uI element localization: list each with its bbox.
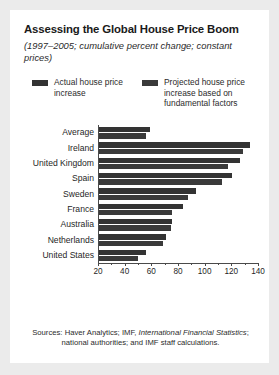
x-axis-tick-label: 80 [173, 267, 182, 276]
x-axis-tick-label: 40 [120, 267, 129, 276]
category-label: France [67, 204, 94, 214]
category-label: United Kingdom [33, 158, 94, 168]
bar-actual [99, 142, 250, 147]
bar-projected [99, 179, 222, 184]
category-label: Ireland [68, 143, 94, 153]
category-label: Netherlands [48, 235, 94, 245]
x-axis-tick-label: 60 [147, 267, 156, 276]
bar-actual [99, 204, 183, 209]
bar-projected [99, 149, 243, 154]
category-label: Australia [61, 219, 94, 229]
source-note: Sources: Haver Analytics; IMF, Internati… [28, 328, 253, 348]
bar-actual [99, 234, 166, 239]
bar-actual [99, 219, 172, 224]
x-axis-tick [231, 263, 232, 266]
plot-area: AverageIrelandUnited KingdomSpainSwedenF… [10, 125, 269, 277]
bar-projected [99, 210, 172, 215]
x-axis-tick [125, 263, 126, 266]
x-axis-tick-label: 20 [93, 267, 102, 276]
y-axis-category-labels: AverageIrelandUnited KingdomSpainSwedenF… [10, 125, 98, 263]
bar-projected [99, 133, 146, 138]
category-label: Sweden [63, 189, 94, 199]
page-title: Assessing the Global House Price Boom [24, 23, 255, 36]
x-axis-tick [205, 263, 206, 266]
x-axis-tick [151, 263, 152, 266]
legend-label-projected: Projected house price increase based on … [164, 77, 260, 109]
x-axis-tick-label: 120 [224, 267, 238, 276]
chart-subtitle: (1997–2005; cumulative percent change; c… [24, 40, 252, 63]
x-axis-minor-tick [191, 263, 192, 265]
bar-actual [99, 127, 150, 132]
bar-projected [99, 225, 171, 230]
bar-actual [99, 158, 240, 163]
bar-projected [99, 164, 228, 169]
category-label: Spain [72, 173, 94, 183]
x-axis-minor-tick [111, 263, 112, 265]
x-axis-minor-tick [138, 263, 139, 265]
source-italic-title: International Financial Statistics [139, 328, 247, 337]
x-axis-minor-tick [165, 263, 166, 265]
category-label: United States [42, 250, 94, 260]
x-axis-tick-label: 140 [251, 267, 265, 276]
bar-projected [99, 195, 188, 200]
bar-projected [99, 256, 138, 261]
x-axis-minor-tick [245, 263, 246, 265]
legend-label-actual: Actual house price increase [54, 77, 142, 98]
x-axis-tick [98, 263, 99, 266]
legend-entry-actual: Actual house price increase [32, 77, 142, 109]
bar-projected [99, 241, 163, 246]
x-axis-tick-label: 100 [198, 267, 212, 276]
category-label: Average [62, 127, 94, 137]
title-block: Assessing the Global House Price Boom (1… [10, 10, 269, 63]
bars-region [98, 125, 258, 263]
bar-actual [99, 188, 196, 193]
legend-entry-projected: Projected house price increase based on … [142, 77, 260, 109]
figure-card: Assessing the Global House Price Boom (1… [10, 10, 269, 363]
x-axis-tick [258, 263, 259, 266]
x-axis: 20406080100120140 [98, 263, 258, 279]
legend-swatch-icon-projected [142, 80, 158, 86]
x-axis-tick [178, 263, 179, 266]
x-axis-minor-tick [218, 263, 219, 265]
bar-actual [99, 250, 146, 255]
chart-legend: Actual house price increase Projected ho… [32, 77, 260, 109]
bar-actual [99, 173, 232, 178]
legend-swatch-icon-actual [32, 80, 48, 86]
